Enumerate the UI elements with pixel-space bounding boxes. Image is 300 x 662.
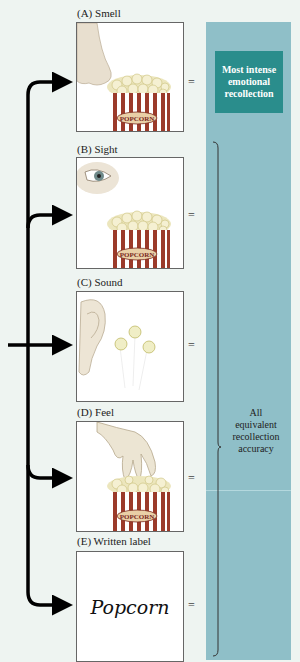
equiv-line-3: recollection [222, 431, 290, 443]
panel-sight: POPCORN [76, 157, 184, 269]
written-word: Popcorn [77, 596, 183, 618]
equiv-line-2: equivalent [222, 419, 290, 431]
equiv-line-4: accuracy [222, 443, 290, 455]
label-sound: (C) Sound [77, 276, 123, 288]
label-smell: (A) Smell [77, 7, 121, 19]
popcorn-box-text: POPCORN [120, 513, 155, 521]
popcorn-box-icon: POPCORN [77, 422, 183, 531]
popping-kernels-icon [77, 292, 183, 401]
equals-sign-written: = [188, 598, 195, 613]
equals-sign-sound: = [188, 338, 195, 353]
popcorn-box-text: POPCORN [120, 251, 155, 259]
panel-feel: POPCORN [76, 421, 184, 532]
panel-sound [76, 291, 184, 402]
equals-sign-smell: = [188, 75, 195, 90]
label-sight: (B) Sight [77, 143, 118, 155]
equiv-line-1: All [222, 407, 290, 419]
equals-sign-feel: = [188, 471, 195, 486]
panel-smell: POPCORN [76, 22, 184, 132]
equals-sign-sight: = [188, 208, 195, 223]
label-written: (E) Written label [77, 535, 151, 547]
panel-written: Popcorn [76, 551, 184, 662]
equivalent-accuracy-label: All equivalent recollection accuracy [222, 407, 290, 455]
label-feel: (D) Feel [77, 406, 114, 418]
popcorn-box-icon: POPCORN [77, 23, 183, 131]
popcorn-box-icon: POPCORN [77, 158, 183, 268]
popcorn-box-text: POPCORN [120, 115, 155, 123]
